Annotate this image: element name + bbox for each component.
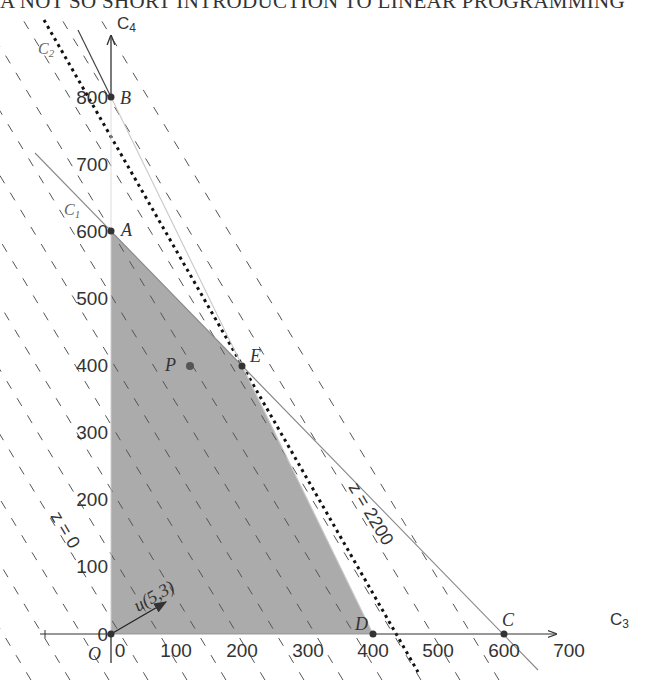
x-axis-label: C3 xyxy=(610,610,629,631)
label-e: E xyxy=(249,346,261,366)
constraint-c1-label: C1 xyxy=(64,201,80,220)
svg-text:700: 700 xyxy=(76,154,108,175)
svg-text:200: 200 xyxy=(76,489,108,510)
feasible-region xyxy=(111,231,373,634)
label-o: O xyxy=(88,644,101,664)
constraint-c2-label: C2 xyxy=(38,40,55,59)
svg-text:800: 800 xyxy=(76,87,108,108)
svg-text:300: 300 xyxy=(292,640,324,661)
label-p: P xyxy=(164,355,176,375)
point-a xyxy=(108,228,115,235)
z-0-label: z = 0 xyxy=(47,508,85,552)
point-c xyxy=(501,631,508,638)
z-2200-label: z = 2200 xyxy=(345,479,398,549)
svg-text:500: 500 xyxy=(422,640,454,661)
svg-text:0: 0 xyxy=(115,640,126,661)
svg-text:400: 400 xyxy=(76,355,108,376)
svg-text:700: 700 xyxy=(553,640,585,661)
label-c: C xyxy=(502,610,515,630)
svg-text:200: 200 xyxy=(226,640,258,661)
lp-diagram: 0 100 200 300 400 500 600 700 800 0 100 … xyxy=(0,0,664,688)
svg-text:100: 100 xyxy=(160,640,192,661)
x-tick-labels: 0 100 200 300 400 500 600 700 xyxy=(115,640,585,661)
label-b: B xyxy=(120,88,131,108)
point-e xyxy=(239,363,246,370)
svg-text:500: 500 xyxy=(76,288,108,309)
point-b xyxy=(108,94,115,101)
point-d xyxy=(370,631,377,638)
svg-text:0: 0 xyxy=(97,624,108,645)
svg-text:600: 600 xyxy=(76,221,108,242)
svg-text:300: 300 xyxy=(76,422,108,443)
svg-text:600: 600 xyxy=(488,640,520,661)
point-o xyxy=(108,631,115,638)
label-d: D xyxy=(354,614,368,634)
y-tick-labels: 0 100 200 300 400 500 600 700 800 xyxy=(76,87,108,645)
svg-text:100: 100 xyxy=(76,556,108,577)
svg-text:400: 400 xyxy=(357,640,389,661)
y-axis-label: C4 xyxy=(117,14,136,35)
point-p xyxy=(186,362,194,370)
label-a: A xyxy=(120,220,133,240)
